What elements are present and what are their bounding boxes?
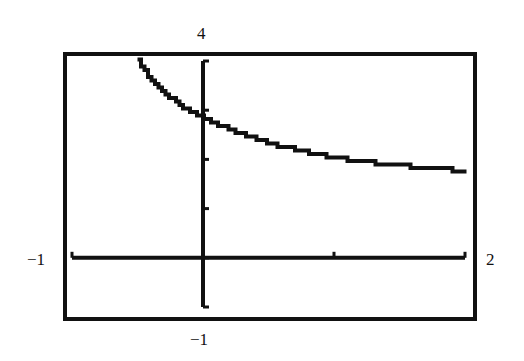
xmax-label: 2: [486, 251, 495, 268]
ymin-label: −1: [190, 331, 208, 348]
ymax-label: 4: [197, 25, 206, 42]
xmin-label: −1: [27, 251, 45, 268]
plot-area: [0, 0, 524, 361]
axes: [72, 61, 465, 307]
window-frame: [65, 54, 475, 319]
curve-line: [138, 60, 467, 172]
